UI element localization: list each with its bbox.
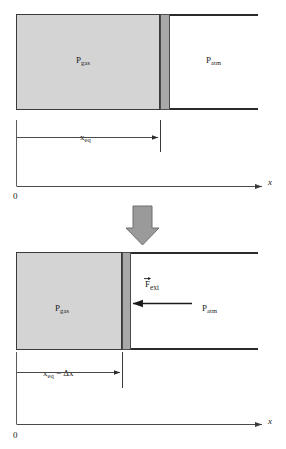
x-axis-label: x xyxy=(268,417,272,426)
atmospheric-pressure-label: Patm xyxy=(206,56,221,65)
compressed-dimension-label: xeq − Δx xyxy=(41,369,76,378)
x-axis-label: x xyxy=(268,178,272,187)
panel-compressed: Pgas Patm Fext xeq − Δx x 0 xyxy=(0,232,286,449)
physics-diagram: Pgas Patm xeq x 0 Pgas Patm xyxy=(0,0,286,449)
gas-pressure-label: Pgas xyxy=(76,56,90,65)
gas-region xyxy=(16,252,122,350)
origin-label: 0 xyxy=(13,431,18,440)
piston xyxy=(122,252,131,350)
origin-label: 0 xyxy=(13,192,18,201)
external-force-label: Fext xyxy=(145,280,159,291)
vector-arrow-icon xyxy=(144,276,151,280)
gas-pressure-label: Pgas xyxy=(55,304,69,313)
piston xyxy=(160,14,170,110)
panel-equilibrium: Pgas Patm xeq x 0 xyxy=(0,0,286,210)
atmospheric-pressure-label: Patm xyxy=(202,304,217,313)
equilibrium-dimension-label: xeq xyxy=(78,133,93,142)
